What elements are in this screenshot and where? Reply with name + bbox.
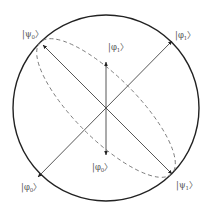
label-phi0-outer: |φ0〉 — [21, 182, 42, 193]
psi-arrow — [43, 45, 172, 174]
label-phi1-inner: |φ1〉 — [108, 42, 129, 53]
label-phi0-inner: |φ0〉 — [92, 162, 113, 173]
label-phi1-outer: |φ1〉 — [175, 30, 196, 41]
bloch-diagram: |ψ0〉 |φ1〉 |φ1〉 |φ0〉 |φ0〉 |ψ1〉 — [0, 0, 212, 217]
phi-diagonal-arrow — [38, 41, 172, 177]
label-psi1: |ψ1〉 — [176, 180, 198, 191]
label-psi0: |ψ0〉 — [22, 29, 44, 40]
